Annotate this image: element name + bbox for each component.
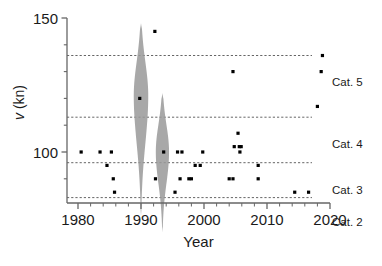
data-point-28 bbox=[257, 177, 260, 180]
violin-shape-1 bbox=[156, 93, 169, 232]
data-point-20 bbox=[231, 177, 234, 180]
data-point-31 bbox=[316, 105, 319, 108]
data-point-11 bbox=[176, 150, 179, 153]
data-point-25 bbox=[236, 132, 239, 135]
data-point-24 bbox=[240, 145, 243, 148]
data-point-0 bbox=[80, 150, 83, 153]
x-axis-title: Year bbox=[183, 233, 213, 250]
data-point-5 bbox=[113, 191, 116, 194]
data-point-10 bbox=[173, 191, 176, 194]
x-tick-label-2000: 2000 bbox=[187, 211, 220, 228]
category-label-2: Cat. 4 bbox=[332, 138, 363, 150]
category-label-4: Cat. 2 bbox=[332, 216, 363, 228]
data-point-3 bbox=[105, 164, 108, 167]
data-point-33 bbox=[320, 70, 323, 73]
data-point-32 bbox=[321, 54, 324, 57]
y-tick-label-100: 100 bbox=[33, 144, 58, 161]
chart-container: 10015019801990200020102020Cat. 5Cat. 4Ca… bbox=[0, 0, 382, 266]
data-point-4 bbox=[112, 177, 115, 180]
data-point-22 bbox=[233, 145, 236, 148]
data-point-17 bbox=[199, 164, 202, 167]
data-point-26 bbox=[238, 150, 241, 153]
data-point-19 bbox=[228, 177, 231, 180]
x-tick-label-1990: 1990 bbox=[124, 211, 157, 228]
data-point-15 bbox=[190, 177, 193, 180]
data-point-21 bbox=[231, 70, 234, 73]
violin-shape-0 bbox=[134, 23, 148, 216]
data-point-6 bbox=[138, 97, 141, 100]
data-point-1 bbox=[98, 150, 101, 153]
x-tick-label-1980: 1980 bbox=[61, 211, 94, 228]
data-point-30 bbox=[307, 191, 310, 194]
data-point-29 bbox=[293, 191, 296, 194]
data-point-9 bbox=[162, 150, 165, 153]
x-tick-label-2010: 2010 bbox=[250, 211, 283, 228]
data-point-7 bbox=[153, 30, 156, 33]
data-point-13 bbox=[178, 177, 181, 180]
category-label-1: Cat. 5 bbox=[332, 76, 363, 88]
data-point-16 bbox=[194, 164, 197, 167]
data-point-27 bbox=[257, 164, 260, 167]
y-tick-label-150: 150 bbox=[33, 10, 58, 27]
y-axis-title: v (kn) bbox=[11, 85, 27, 120]
category-label-3: Cat. 3 bbox=[332, 184, 363, 196]
data-point-2 bbox=[110, 150, 113, 153]
data-point-18 bbox=[201, 150, 204, 153]
data-point-8 bbox=[154, 177, 157, 180]
scatter-violin-plot: 10015019801990200020102020Cat. 5Cat. 4Ca… bbox=[0, 0, 382, 266]
data-point-12 bbox=[180, 150, 183, 153]
chart-svg: 10015019801990200020102020Cat. 5Cat. 4Ca… bbox=[0, 0, 382, 266]
